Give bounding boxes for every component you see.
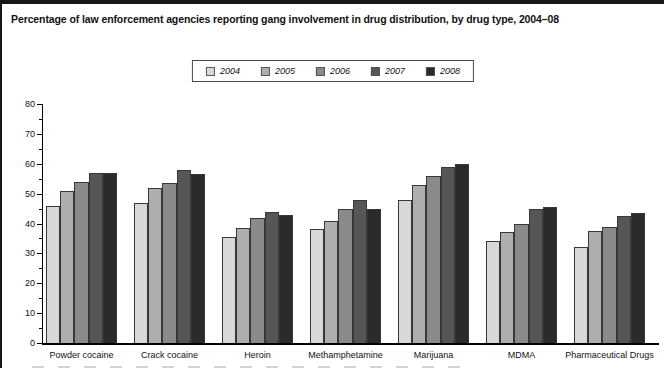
bar-2004 bbox=[574, 247, 588, 343]
bar-group-heroin: Heroin bbox=[222, 104, 293, 343]
bar-2004 bbox=[46, 206, 60, 343]
bar-group-crack-cocaine: Crack cocaine bbox=[134, 104, 205, 343]
y-minor-tick bbox=[39, 298, 42, 299]
y-major-tick bbox=[37, 164, 42, 165]
x-axis-label: Powder cocaine bbox=[49, 350, 113, 360]
y-axis-label: 80 bbox=[11, 99, 35, 109]
bar-2006 bbox=[514, 224, 528, 344]
bar-2005 bbox=[588, 231, 602, 343]
bar-2007 bbox=[617, 216, 631, 343]
bar-2004 bbox=[222, 237, 236, 343]
x-axis-label: Marijuana bbox=[414, 350, 454, 360]
bar-2008 bbox=[631, 213, 645, 343]
y-major-tick bbox=[37, 343, 42, 344]
y-axis-label: 50 bbox=[11, 189, 35, 199]
y-major-tick bbox=[37, 283, 42, 284]
bar-2004 bbox=[310, 229, 324, 343]
y-minor-tick bbox=[39, 268, 42, 269]
y-minor-tick bbox=[39, 238, 42, 239]
y-axis-label: 70 bbox=[11, 129, 35, 139]
bar-2006 bbox=[162, 183, 176, 343]
bar-2006 bbox=[426, 176, 440, 343]
bar-2005 bbox=[236, 228, 250, 343]
bar-2008 bbox=[191, 174, 205, 343]
bar-2007 bbox=[177, 170, 191, 343]
bar-2005 bbox=[148, 188, 162, 343]
bar-2005 bbox=[412, 185, 426, 343]
bar-group-methamphetamine: Methamphetamine bbox=[310, 104, 381, 343]
y-major-tick bbox=[37, 224, 42, 225]
bar-group-pharmaceutical-drugs: Pharmaceutical Drugs bbox=[574, 104, 645, 343]
x-axis-label: MDMA bbox=[508, 350, 536, 360]
bar-2005 bbox=[324, 221, 338, 343]
bar-2004 bbox=[398, 200, 412, 343]
y-major-tick bbox=[37, 104, 42, 105]
plot-area: Powder cocaineCrack cocaineHeroinMethamp… bbox=[42, 104, 659, 345]
bar-2008 bbox=[543, 207, 557, 343]
y-axis-label: 60 bbox=[11, 159, 35, 169]
bar-2004 bbox=[134, 203, 148, 343]
x-axis-label: Methamphetamine bbox=[308, 350, 383, 360]
x-axis-label: Heroin bbox=[244, 350, 271, 360]
bar-2005 bbox=[60, 191, 74, 343]
bar-group-powder-cocaine: Powder cocaine bbox=[46, 104, 117, 343]
bar-2008 bbox=[279, 215, 293, 343]
bar-2007 bbox=[441, 167, 455, 343]
y-axis-label: 40 bbox=[11, 219, 35, 229]
bar-group-marijuana: Marijuana bbox=[398, 104, 469, 343]
bar-2006 bbox=[602, 227, 616, 344]
bar-2006 bbox=[74, 182, 88, 343]
bar-group-mdma: MDMA bbox=[486, 104, 557, 343]
y-minor-tick bbox=[39, 328, 42, 329]
bar-2006 bbox=[250, 218, 264, 343]
x-axis-label: Pharmaceutical Drugs bbox=[565, 350, 654, 360]
chart-area: Powder cocaineCrack cocaineHeroinMethamp… bbox=[2, 4, 664, 368]
bar-2008 bbox=[103, 173, 117, 343]
bar-2007 bbox=[89, 173, 103, 343]
bar-2005 bbox=[500, 232, 514, 343]
y-axis-label: 20 bbox=[11, 278, 35, 288]
bar-2004 bbox=[486, 241, 500, 343]
y-axis-label: 30 bbox=[11, 248, 35, 258]
y-minor-tick bbox=[39, 179, 42, 180]
bar-2007 bbox=[529, 209, 543, 343]
bar-2006 bbox=[338, 209, 352, 343]
y-major-tick bbox=[37, 313, 42, 314]
x-axis-label: Crack cocaine bbox=[141, 350, 198, 360]
y-major-tick bbox=[37, 253, 42, 254]
bar-2007 bbox=[265, 212, 279, 343]
bar-2008 bbox=[367, 209, 381, 343]
y-minor-tick bbox=[39, 119, 42, 120]
bar-2008 bbox=[455, 164, 469, 343]
y-minor-tick bbox=[39, 149, 42, 150]
chart-panel: Percentage of law enforcement agencies r… bbox=[0, 0, 664, 368]
y-major-tick bbox=[37, 134, 42, 135]
bar-groups: Powder cocaineCrack cocaineHeroinMethamp… bbox=[43, 104, 659, 343]
y-minor-tick bbox=[39, 209, 42, 210]
bar-2007 bbox=[353, 200, 367, 343]
y-axis-label: 10 bbox=[11, 308, 35, 318]
y-axis-label: 0 bbox=[11, 338, 35, 348]
y-major-tick bbox=[37, 194, 42, 195]
